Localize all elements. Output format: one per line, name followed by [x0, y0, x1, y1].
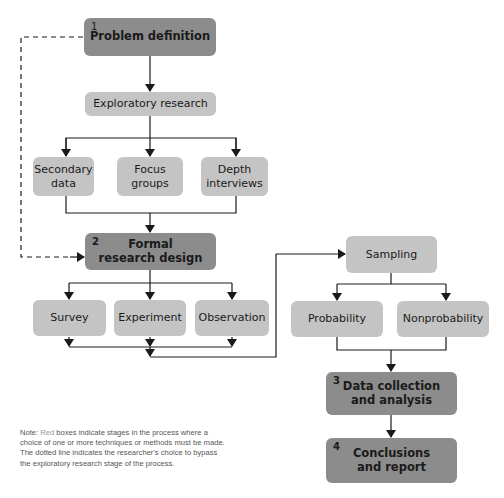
box-label: Nonprobability — [403, 312, 484, 325]
stage-number: 1 — [91, 21, 97, 33]
box-label: Survey — [50, 311, 88, 324]
box-label: Exploratory research — [93, 97, 208, 110]
footnote: Note: Red boxes indicate stages in the p… — [20, 428, 225, 469]
secondary-data-box: Secondary data — [33, 157, 94, 196]
box-label: Observation — [199, 311, 266, 324]
stage-formal-research-design: 2 Formal research design — [85, 233, 216, 270]
stage-label: Conclusions and report — [353, 447, 430, 475]
observation-box: Observation — [195, 300, 269, 336]
stage-number: 4 — [333, 441, 340, 453]
stage-number: 3 — [333, 375, 340, 387]
box-label: Depth interviews — [206, 163, 263, 189]
exploratory-research-box: Exploratory research — [85, 92, 216, 116]
probability-box: Probability — [291, 301, 383, 337]
stage-label: Formal research design — [99, 238, 203, 266]
bypass-dashed-line — [21, 37, 84, 257]
stage-number: 2 — [92, 236, 99, 248]
box-label: Probability — [308, 312, 366, 325]
experiment-box: Experiment — [114, 300, 186, 336]
box-label: Secondary data — [34, 163, 92, 189]
nonprobability-box: Nonprobability — [397, 301, 489, 337]
stage-label: Data collection and analysis — [343, 380, 440, 408]
box-label: Focus groups — [131, 163, 169, 189]
survey-box: Survey — [33, 300, 106, 336]
box-label: Sampling — [366, 248, 418, 261]
stage-label: Problem definition — [90, 30, 210, 44]
note-prefix: Note: — [20, 428, 40, 437]
depth-interviews-box: Depth interviews — [201, 157, 268, 196]
sampling-box: Sampling — [346, 236, 437, 273]
stage-conclusions: 4 Conclusions and report — [326, 438, 457, 483]
stage-problem-definition: 1 Problem definition — [84, 18, 216, 56]
box-label: Experiment — [118, 311, 182, 324]
focus-groups-box: Focus groups — [117, 157, 183, 196]
stage-data-collection: 3 Data collection and analysis — [326, 372, 457, 415]
note-highlight: Red — [40, 428, 54, 437]
